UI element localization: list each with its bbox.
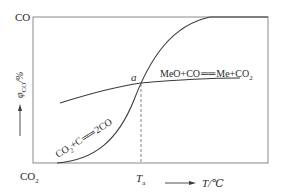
- svg-text:CO2+C══2CO: CO2+C══2CO: [53, 116, 115, 162]
- ta-label: Ta: [136, 172, 146, 187]
- svg-text:φCO/%: φCO/%: [14, 72, 28, 98]
- boudouard-equation-label: CO2+C══2CO: [53, 116, 115, 162]
- reduction-curve: [60, 78, 240, 103]
- intersection-label: a: [131, 71, 137, 83]
- y-top-label: CO: [15, 11, 30, 23]
- equilibrium-diagram: a MeO+CO══Me+CO2 CO2+C══2CO CO CO2 φCO/%…: [0, 0, 282, 192]
- x-axis-label: T/℃: [202, 177, 224, 189]
- y-axis-arrow-icon: [18, 104, 22, 136]
- y-axis-label: φCO/%: [14, 72, 28, 98]
- x-axis-arrow-icon: [165, 181, 196, 185]
- y-bottom-label: CO2: [20, 170, 39, 185]
